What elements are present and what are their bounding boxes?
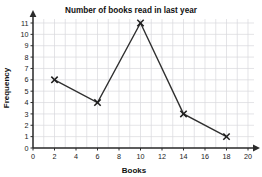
y-tick-label: 0 [25,144,29,153]
x-axis-label: Books [122,166,147,175]
y-tick-label: 5 [25,87,29,96]
y-tick-label: 11 [21,19,28,28]
x-tick-label: 6 [96,152,100,161]
y-tick-label: 6 [25,75,29,84]
x-tick-label: 16 [201,152,209,161]
x-tick-label: 12 [158,152,166,161]
x-tick-label: 8 [117,152,121,161]
chart-container: 01234567891011 02468101214161820 Number … [0,0,262,177]
x-tick-label: 0 [31,152,35,161]
x-tick-label: 4 [74,152,78,161]
y-tick-label: 1 [25,132,29,141]
y-tick-label: 9 [25,41,29,50]
y-tick-label: 4 [25,98,29,107]
y-tick-label: 10 [21,30,29,39]
y-tick-label: 2 [25,121,29,130]
y-tick-label: 8 [25,53,29,62]
x-tick-label: 2 [53,152,57,161]
y-tick-label: 3 [25,110,29,119]
y-axis-label: Frequency [2,67,11,108]
y-tick-label: 7 [25,64,29,73]
x-tick-label: 20 [244,152,252,161]
x-tick-label: 18 [223,152,231,161]
chart-title: Number of books read in last year [65,6,198,15]
x-tick-label: 10 [137,152,145,161]
chart-background [0,0,262,177]
x-tick-label: 14 [180,152,188,161]
line-chart: 01234567891011 02468101214161820 Number … [0,0,262,177]
